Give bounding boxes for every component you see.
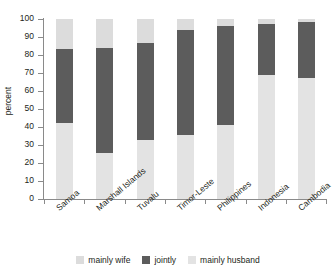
bar-segment [137,43,154,139]
bar-segment [96,19,113,48]
y-tick-label: 60 [25,86,34,95]
bar-segment [56,123,73,199]
y-tick [38,73,43,74]
bar-segment [177,30,194,135]
bar-group [96,19,113,199]
plot-area [44,19,326,199]
bar-group [177,19,194,199]
legend-swatch-icon [142,256,150,264]
chart-legend: mainly wifejointlymainly husband [0,255,336,265]
legend-label: jointly [154,255,176,265]
y-tick-label: 90 [25,32,34,41]
legend-label: mainly wife [88,255,130,265]
legend-item: mainly husband [188,255,260,265]
bar-segment [56,19,73,49]
bar-segment [298,22,315,79]
y-tick [38,163,43,164]
bar-group [298,19,315,199]
x-tick [125,200,126,204]
bar-group [217,19,234,199]
bar-segment [217,26,234,125]
y-tick [38,145,43,146]
bar-group [258,19,275,199]
bar-segment [298,19,315,22]
y-tick-label: 0 [29,194,34,203]
bar-segment [96,48,113,153]
x-tick [44,200,45,204]
y-tick-label: 100 [20,14,34,23]
x-tick [84,200,85,204]
bar-segment [217,125,234,199]
legend-item: mainly wife [76,255,130,265]
y-tick-label: 70 [25,68,34,77]
legend-swatch-icon [188,256,196,264]
legend-label: mainly husband [200,255,260,265]
bar-segment [258,24,275,74]
y-tick-label: 80 [25,50,34,59]
y-tick [38,199,43,200]
stacked-bar-chart: percent 0102030405060708090100 SamoaMars… [0,0,336,275]
y-tick [38,19,43,20]
y-tick-label: 50 [25,104,34,113]
x-tick [205,200,206,204]
bar-segment [298,78,315,199]
y-tick-label: 30 [25,140,34,149]
bar-segment [177,135,194,199]
bar-segment [217,19,234,26]
bar-segment [258,75,275,199]
y-tick [38,37,43,38]
bar-segment [137,19,154,43]
x-tick [326,200,327,204]
y-tick-label: 10 [25,176,34,185]
y-axis-title: percent [3,71,13,131]
bar-segment [177,19,194,30]
legend-swatch-icon [76,256,84,264]
bar-segment [56,49,73,124]
bar-group [56,19,73,199]
x-tick [165,200,166,204]
y-tick [38,91,43,92]
x-tick [246,200,247,204]
x-tick [286,200,287,204]
bar-segment [258,19,275,24]
y-tick [38,109,43,110]
y-tick-label: 40 [25,122,34,131]
y-tick-label: 20 [25,158,34,167]
y-tick [38,55,43,56]
y-tick [38,127,43,128]
legend-item: jointly [142,255,176,265]
y-tick [38,181,43,182]
